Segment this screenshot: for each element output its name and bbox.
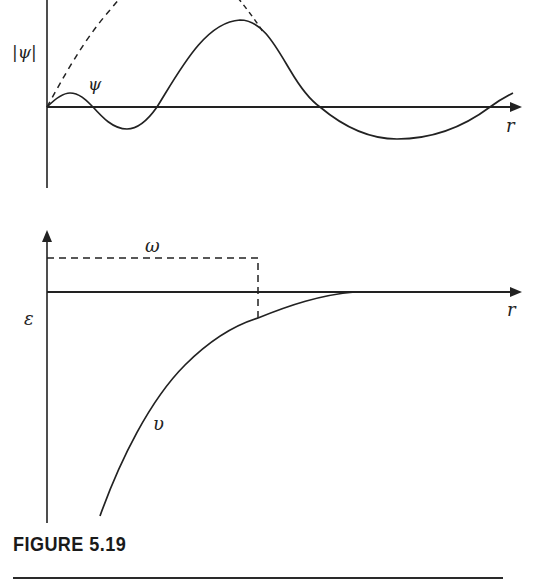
- omega-label: ω: [145, 235, 160, 256]
- psi-label: ψ: [88, 74, 102, 94]
- abs-psi-envelope-curve: [47, 0, 120, 107]
- caption-rule: [13, 577, 503, 579]
- omega-dashed-well: [47, 258, 258, 318]
- figure-caption: FIGURE 5.19: [13, 532, 126, 556]
- figure-diagram: |ψ| ψ r ω ε υ r: [0, 0, 544, 585]
- upsilon-label: υ: [153, 413, 164, 434]
- bottom-r-label: r: [507, 299, 517, 320]
- top-panel: |ψ| ψ r: [12, 0, 516, 188]
- epsilon-label: ε: [24, 308, 34, 329]
- bottom-panel: ω ε υ r: [24, 235, 517, 523]
- top-r-label: r: [506, 115, 516, 136]
- psi-curve: [47, 20, 513, 139]
- abs-psi-label: |ψ|: [12, 42, 37, 62]
- potential-v-curve: [100, 292, 355, 516]
